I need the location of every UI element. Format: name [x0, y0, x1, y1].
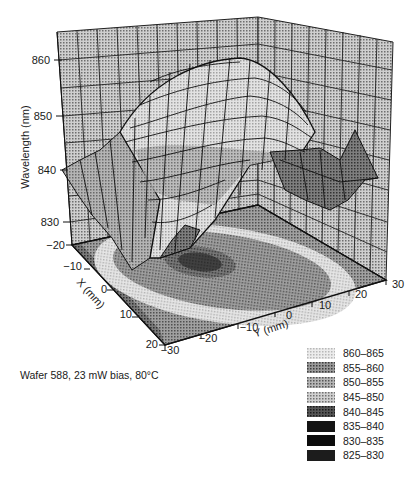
x-tick: 10	[120, 308, 132, 320]
y-tick: −20	[199, 332, 218, 344]
legend-swatch	[307, 377, 335, 388]
x-tick: 0	[101, 283, 107, 295]
z-axis-label: Wavelength (nm)	[19, 105, 31, 188]
legend-item: 835–840	[307, 419, 384, 434]
y-tick: 20	[355, 288, 367, 300]
y-tick: 10	[319, 299, 331, 311]
z-tick: 840	[38, 164, 56, 176]
legend-label: 835–840	[343, 420, 384, 432]
z-tick: 850	[34, 110, 52, 122]
legend-item: 845–850	[307, 390, 384, 405]
legend-swatch	[307, 450, 335, 461]
legend-label: 860–865	[343, 347, 384, 359]
legend-label: 830–835	[343, 435, 384, 447]
legend-item: 840–845	[307, 404, 384, 419]
y-tick: 30	[392, 278, 404, 290]
legend-swatch	[307, 348, 335, 359]
legend-item: 860–865	[307, 346, 384, 361]
x-tick: −20	[46, 239, 65, 251]
y-tick: −30	[161, 344, 180, 356]
legend-swatch	[307, 392, 335, 403]
z-tick: 860	[32, 54, 50, 66]
legend-swatch	[307, 362, 335, 373]
x-tick: 20	[146, 338, 158, 350]
legend-label: 845–850	[343, 391, 384, 403]
legend-item: 825–830	[307, 448, 384, 463]
legend-label: 855–860	[343, 362, 384, 374]
legend-label: 840–845	[343, 406, 384, 418]
legend-swatch	[307, 421, 335, 432]
figure-caption: Wafer 588, 23 mW bias, 80°C	[20, 369, 159, 381]
legend-swatch	[307, 435, 335, 446]
legend-swatch	[307, 406, 335, 417]
legend-item: 830–835	[307, 434, 384, 449]
x-tick: −10	[63, 260, 82, 272]
legend-label: 825–830	[343, 449, 384, 461]
legend-item: 855–860	[307, 361, 384, 376]
legend-item: 850–855	[307, 375, 384, 390]
z-tick: 830	[41, 216, 59, 228]
legend: 860–865 855–860 850–855 845–850 840–845 …	[307, 346, 384, 463]
legend-label: 850–855	[343, 376, 384, 388]
y-tick: 0	[286, 309, 292, 321]
